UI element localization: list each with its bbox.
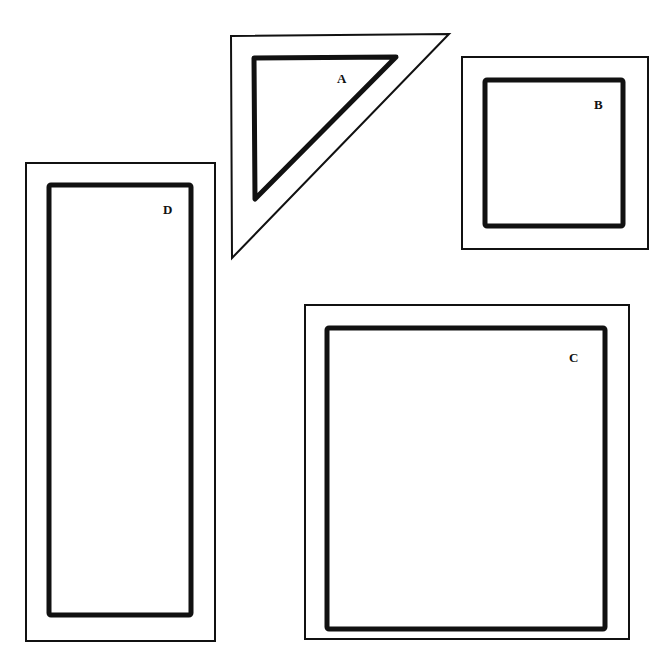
shape-d-rectangle: D [26,163,215,641]
shape-b-outer-border [462,57,648,249]
shape-a-outer-border [231,34,449,258]
shape-b-label: B [594,97,603,112]
shape-c-outer-border [305,305,629,639]
shape-a-inner-border [254,57,396,199]
shape-d-outer-border [26,163,215,641]
shape-b-square: B [462,57,648,249]
shape-d-label: D [163,202,172,217]
frames-diagram: A B C D [0,0,669,664]
shape-c-square: C [305,305,629,639]
shape-c-label: C [569,350,578,365]
shape-d-inner-border [49,185,191,615]
shape-a-triangle: A [231,34,449,258]
shape-c-inner-border [327,328,605,629]
shape-a-label: A [337,71,347,86]
